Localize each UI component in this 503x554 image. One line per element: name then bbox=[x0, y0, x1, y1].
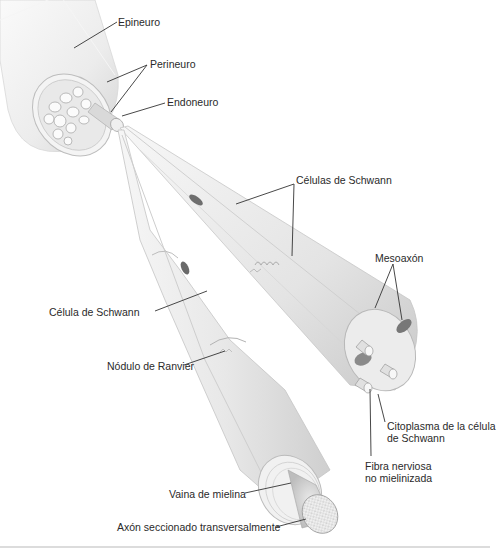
label-epineuro: Epineuro bbox=[118, 16, 160, 28]
label-endoneuro: Endoneuro bbox=[167, 96, 218, 108]
nerve-structure-diagram: Epineuro Perineuro Endoneuro Células de … bbox=[0, 0, 503, 554]
label-celulas-schwann: Células de Schwann bbox=[296, 174, 392, 186]
label-nodulo-ranvier: Nódulo de Ranvier bbox=[107, 360, 194, 372]
label-fibra-line2: no mielinizada bbox=[365, 472, 432, 484]
label-mesoaxon: Mesoaxón bbox=[375, 252, 423, 264]
label-citoplasma-line2: de Schwann bbox=[387, 432, 445, 444]
label-axon: Axón seccionado transversalmente bbox=[117, 521, 280, 533]
label-citoplasma-line1: Citoplasma de la célula bbox=[387, 420, 496, 432]
label-perineuro: Perineuro bbox=[150, 58, 196, 70]
label-fibra-line1: Fibra nerviosa bbox=[365, 460, 432, 472]
bottom-divider bbox=[0, 546, 490, 548]
nerve-trunk bbox=[0, 0, 128, 172]
label-celula-schwann: Célula de Schwann bbox=[49, 306, 139, 318]
label-vaina-mielina: Vaina de mielina bbox=[169, 488, 246, 500]
